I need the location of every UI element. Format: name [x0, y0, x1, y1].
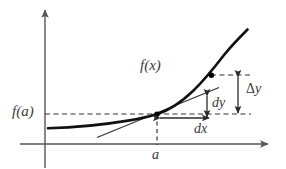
label-dx: dx — [194, 122, 207, 136]
guide-lines-group — [45, 75, 251, 145]
label-delta-y: Δy — [246, 82, 261, 96]
label-dy: dy — [212, 96, 225, 110]
label-f-of-a: f(a) — [12, 104, 34, 119]
axes-group — [20, 10, 268, 168]
differential-diagram: f(a) f(x) a dx dy Δy — [0, 0, 286, 169]
label-f-of-x: f(x) — [140, 58, 161, 73]
label-a: a — [152, 148, 159, 162]
function-curve — [48, 30, 248, 129]
diagram-canvas — [0, 0, 286, 169]
delta-y-variable: y — [255, 81, 261, 96]
delta-symbol: Δ — [246, 81, 255, 96]
curve-point-marker — [209, 73, 214, 78]
tangency-point-marker — [154, 112, 159, 117]
